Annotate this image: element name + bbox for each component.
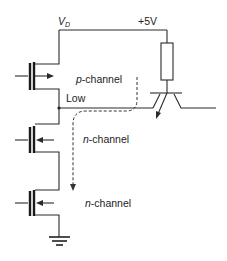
n-channel-mosfet-1 [15,126,59,190]
n-channel-label-2: n-channel [85,197,131,209]
q2-drain-lead [35,108,59,124]
vd-rail [35,30,59,64]
resistor [161,43,173,80]
source-lead [35,89,59,108]
ground-icon [49,237,70,245]
q3-source-lead [35,215,59,237]
vd-label: VD [58,15,70,28]
supply-voltage-label: +5V [138,15,157,27]
bipolar-transistor [150,93,216,119]
emitter-arrow-icon [156,111,161,119]
arrow-out-icon [47,73,54,79]
q2-source-lead [35,152,59,190]
arrow-in-icon [36,137,43,143]
emitter-lead [153,94,160,108]
collector-lead [174,94,216,108]
low-node-label: Low [66,92,86,104]
circuit-diagram: VD +5V p-channel Low n-channel n-channel [0,0,227,261]
p-channel-label: p-channel [75,73,122,85]
n-channel-mosfet-2 [15,190,59,237]
p-channel-mosfet [15,62,59,108]
arrow-in-icon [36,200,43,206]
current-arrow-icon [70,184,76,191]
n-channel-label-1: n-channel [83,133,129,145]
